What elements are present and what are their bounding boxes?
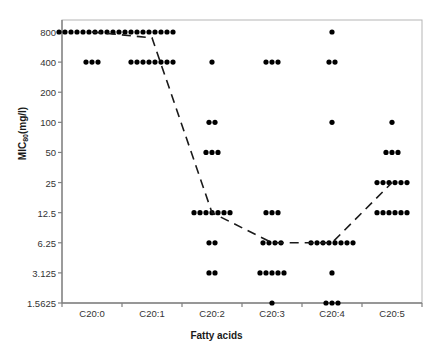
data-point <box>62 29 67 34</box>
data-point <box>275 270 280 275</box>
data-point <box>158 29 163 34</box>
plot-frame <box>62 20 422 303</box>
data-point <box>335 300 340 305</box>
data-point <box>374 210 379 215</box>
data-point <box>275 210 280 215</box>
data-point <box>203 150 208 155</box>
data-point <box>314 240 319 245</box>
data-point <box>260 240 265 245</box>
data-point <box>338 240 343 245</box>
series-C20:1 <box>128 29 175 64</box>
data-point <box>134 60 139 65</box>
data-point <box>404 180 409 185</box>
series-C20:5 <box>374 120 409 216</box>
data-point <box>212 270 217 275</box>
data-point <box>206 240 211 245</box>
data-point <box>275 60 280 65</box>
data-point <box>80 29 85 34</box>
data-point <box>197 210 202 215</box>
data-point <box>398 180 403 185</box>
data-point <box>344 240 349 245</box>
data-point <box>269 270 274 275</box>
data-point <box>95 60 100 65</box>
data-point <box>206 120 211 125</box>
data-point <box>146 60 151 65</box>
data-point <box>164 29 169 34</box>
data-point <box>134 29 139 34</box>
series-C20:3 <box>257 60 286 306</box>
data-point <box>74 29 79 34</box>
data-point <box>116 29 121 34</box>
data-point <box>329 29 334 34</box>
series-C20:4 <box>308 29 355 305</box>
data-point <box>215 150 220 155</box>
data-point <box>152 29 157 34</box>
data-point <box>374 180 379 185</box>
data-point <box>392 210 397 215</box>
data-point <box>215 210 220 215</box>
data-point <box>227 210 232 215</box>
data-point <box>404 210 409 215</box>
data-point <box>332 240 337 245</box>
data-point <box>281 270 286 275</box>
data-point <box>323 300 328 305</box>
data-point <box>128 60 133 65</box>
data-point <box>380 180 385 185</box>
data-point <box>212 120 217 125</box>
series-C20:0 <box>56 29 127 64</box>
data-point <box>209 150 214 155</box>
data-point <box>89 60 94 65</box>
data-point <box>380 210 385 215</box>
data-point <box>329 270 334 275</box>
data-point <box>263 60 268 65</box>
data-point <box>206 270 211 275</box>
series-C20:2 <box>191 60 232 276</box>
data-point <box>140 60 145 65</box>
data-point <box>398 210 403 215</box>
data-point <box>257 270 262 275</box>
data-point <box>140 29 145 34</box>
data-point <box>209 60 214 65</box>
data-point <box>212 240 217 245</box>
data-point <box>164 60 169 65</box>
data-point <box>389 150 394 155</box>
data-point <box>392 180 397 185</box>
data-point <box>203 210 208 215</box>
data-point <box>170 29 175 34</box>
data-point <box>191 210 196 215</box>
plot-area <box>0 0 433 351</box>
data-point <box>128 29 133 34</box>
data-point <box>56 29 61 34</box>
data-point <box>83 60 88 65</box>
data-point <box>269 60 274 65</box>
data-point <box>68 29 73 34</box>
data-point <box>329 300 334 305</box>
data-point <box>383 150 388 155</box>
data-point <box>263 270 268 275</box>
data-point <box>170 60 175 65</box>
data-point <box>122 29 127 34</box>
data-point <box>146 29 151 34</box>
data-point <box>86 29 91 34</box>
data-point <box>395 150 400 155</box>
data-point <box>332 60 337 65</box>
data-point <box>350 240 355 245</box>
data-point <box>221 210 226 215</box>
data-point <box>386 210 391 215</box>
data-point <box>263 210 268 215</box>
data-point <box>389 120 394 125</box>
data-point <box>326 60 331 65</box>
data-point <box>269 300 274 305</box>
scatter-chart: MIC80(mg/l) Fatty acids 8004002001005025… <box>0 0 433 351</box>
data-point <box>152 60 157 65</box>
data-point <box>269 210 274 215</box>
data-point <box>329 120 334 125</box>
